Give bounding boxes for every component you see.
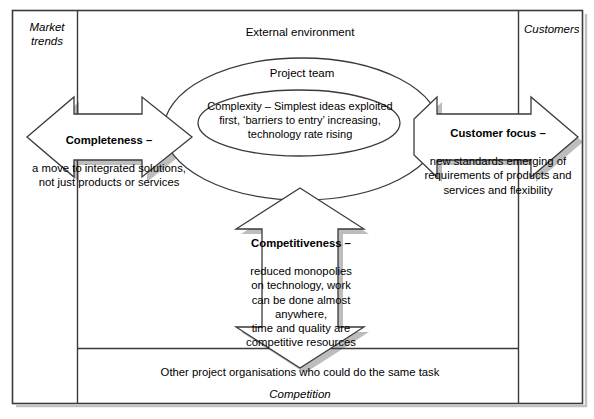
label-external-environment: External environment [200,25,400,39]
text-customer-focus: Customer focus – new standards emerging … [410,112,586,197]
text-complexity: Complexity – Simplest ideas exploited fi… [196,100,404,141]
label-competition: Competition [240,387,360,401]
text-customer-focus-title: Customer focus – [410,126,586,140]
label-other-project-organisations: Other project organisations who could do… [140,366,460,380]
label-market-trends: Market trends [18,20,76,48]
label-project-team: Project team [222,66,382,80]
label-customers: Customers [524,22,586,36]
text-customer-focus-body: new standards emerging of requirements o… [425,155,572,195]
diagram-canvas: Market trends Customers External environ… [0,0,594,419]
text-competitiveness-title: Competitiveness – [235,236,367,250]
text-completeness-title: Completeness – [22,133,196,147]
text-completeness: Completeness – a move to integrated solu… [22,119,196,190]
text-competitiveness-body: reduced monopolies on technology, work c… [246,265,356,348]
text-competitiveness: Competitiveness – reduced monopolies on … [235,222,367,349]
diagram-graphics [0,0,594,419]
text-completeness-body: a move to integrated solutions, not just… [32,162,186,188]
